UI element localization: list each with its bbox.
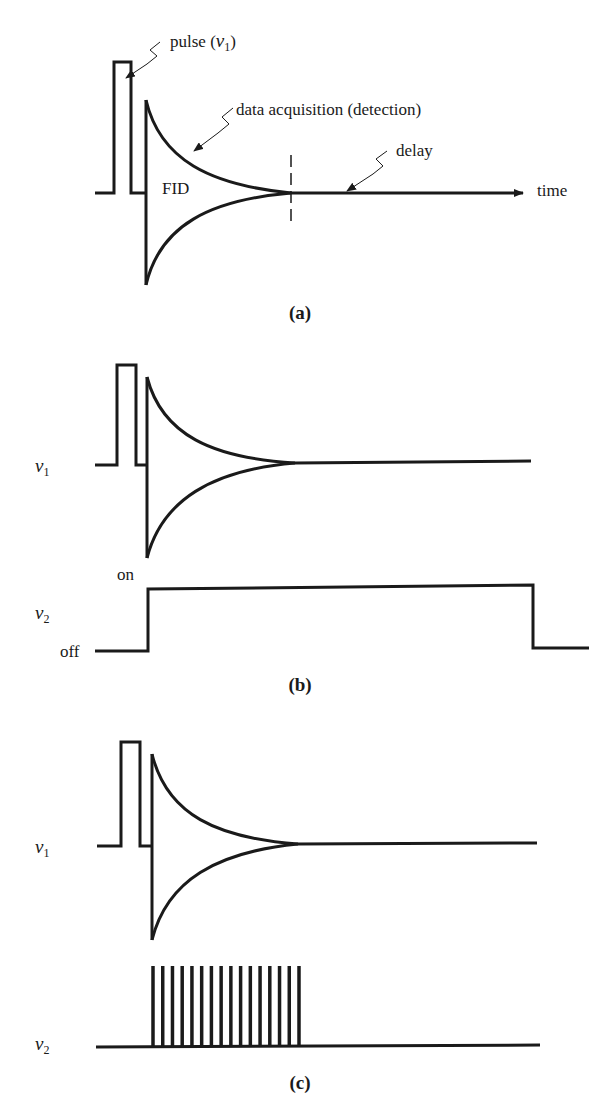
data-acquisition-label: data acquisition (detection) bbox=[236, 100, 421, 119]
panel-c: ν1 ν2 (c) bbox=[35, 742, 540, 1094]
panel-b: ν1 ν2 on off (b) bbox=[35, 365, 589, 696]
fid-upper-envelope bbox=[152, 754, 298, 844]
panel-a: pulse (ν1) data acquisition (detection) … bbox=[95, 30, 567, 324]
panel-b-caption: (b) bbox=[288, 674, 311, 696]
decoupler-off-label: off bbox=[60, 642, 80, 661]
fid-lower-envelope bbox=[152, 844, 298, 940]
fid-lower-envelope bbox=[146, 193, 291, 285]
nu2-channel-label: ν2 bbox=[35, 1033, 49, 1057]
decoupler-continuous-waveform bbox=[95, 585, 589, 651]
pulse-label: pulse (ν1) bbox=[170, 30, 236, 54]
acquisition-pointer-icon bbox=[194, 108, 233, 151]
panel-a-caption: (a) bbox=[289, 302, 311, 324]
rf-pulse-nu1 bbox=[97, 742, 152, 846]
fid-lower-envelope bbox=[147, 463, 295, 558]
decoupler-on-label: on bbox=[117, 565, 135, 584]
fid-label: FID bbox=[162, 179, 189, 198]
time-axis-label: time bbox=[537, 181, 567, 200]
panel-c-caption: (c) bbox=[289, 1072, 310, 1094]
rf-pulse-nu1 bbox=[95, 62, 146, 193]
nu1-channel-label: ν1 bbox=[35, 455, 49, 479]
nu1-channel-label: ν1 bbox=[35, 836, 49, 860]
decoupler-gated-pulse-train bbox=[153, 966, 299, 1046]
fid-upper-envelope bbox=[147, 377, 295, 463]
delay-label: delay bbox=[396, 141, 433, 160]
delay-pointer-icon bbox=[347, 151, 387, 191]
nu2-channel-label: ν2 bbox=[35, 602, 49, 626]
rf-pulse-nu1 bbox=[95, 365, 147, 465]
nmr-pulse-sequence-figure: pulse (ν1) data acquisition (detection) … bbox=[0, 0, 610, 1105]
nu1-baseline bbox=[295, 461, 531, 463]
nu1-baseline bbox=[298, 843, 537, 844]
